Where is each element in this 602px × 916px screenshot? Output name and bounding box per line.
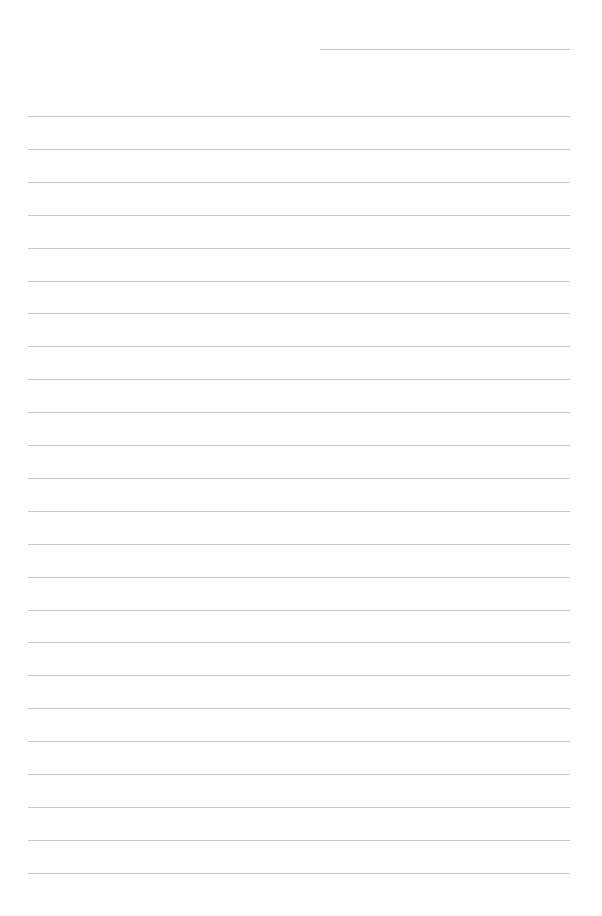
ruled-line	[28, 577, 570, 578]
ruled-line	[28, 708, 570, 709]
ruled-line	[28, 346, 570, 347]
ruled-line	[28, 675, 570, 676]
ruled-line	[28, 774, 570, 775]
ruled-line	[28, 313, 570, 314]
ruled-line	[28, 544, 570, 545]
ruled-line	[28, 807, 570, 808]
ruled-line	[28, 182, 570, 183]
ruled-line	[28, 478, 570, 479]
ruled-line	[28, 642, 570, 643]
ruled-line	[28, 412, 570, 413]
ruled-line	[28, 281, 570, 282]
ruled-line	[28, 610, 570, 611]
ruled-line	[28, 873, 570, 874]
ruled-line	[28, 149, 570, 150]
header-name-line	[320, 49, 570, 50]
ruled-line	[28, 511, 570, 512]
ruled-line	[28, 379, 570, 380]
ruled-line	[28, 445, 570, 446]
ruled-line	[28, 840, 570, 841]
ruled-line	[28, 116, 570, 117]
ruled-line	[28, 741, 570, 742]
ruled-line	[28, 215, 570, 216]
ruled-line	[28, 248, 570, 249]
